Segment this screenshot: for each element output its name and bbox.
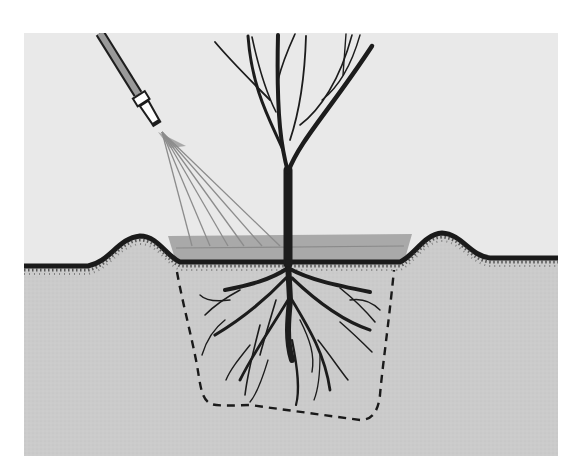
illustration-canvas bbox=[0, 0, 576, 472]
tree-watering-illustration bbox=[0, 0, 576, 472]
